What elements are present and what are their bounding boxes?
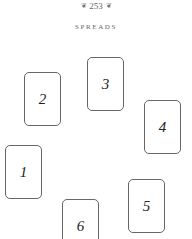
card-position-4: 4 [144, 100, 181, 154]
card-number: 5 [143, 199, 151, 214]
card-position-5: 5 [128, 179, 165, 233]
card-number: 1 [20, 165, 28, 180]
left-ornament-icon: ❦ [81, 3, 86, 10]
page-number: 253 [89, 2, 103, 11]
card-number: 4 [159, 120, 167, 135]
card-position-6: 6 [62, 199, 99, 239]
card-position-2: 2 [24, 72, 61, 126]
card-number: 2 [39, 92, 47, 107]
card-number: 3 [102, 77, 110, 92]
page-header: ❦ 253 ❦ [0, 0, 192, 12]
card-position-3: 3 [87, 57, 124, 111]
right-ornament-icon: ❦ [106, 3, 111, 10]
card-number: 6 [77, 219, 85, 234]
card-position-1: 1 [5, 145, 42, 199]
section-title: SPREADS [0, 23, 192, 31]
